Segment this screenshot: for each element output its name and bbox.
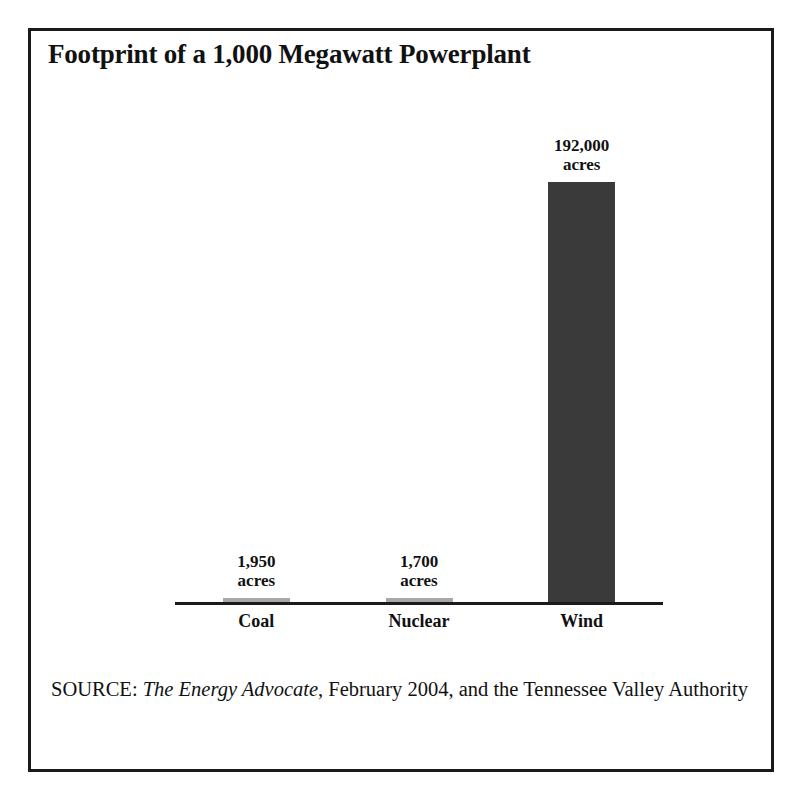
source-remainder: , February 2004, and the Tennessee Valle… <box>318 678 748 700</box>
bar-value-label-nuclear: 1,700 acres <box>400 552 438 591</box>
bar-value-label-wind: 192,000 acres <box>554 136 609 175</box>
category-label-nuclear: Nuclear <box>338 608 501 632</box>
figure-frame: Footprint of a 1,000 Megawatt Powerplant… <box>28 28 774 772</box>
bar-rect-wind <box>548 182 615 602</box>
bar-wind: 192,000 acres <box>500 132 663 602</box>
source-prefix: SOURCE: <box>51 678 143 700</box>
bar-value-label-coal: 1,950 acres <box>237 552 275 591</box>
bar-group: 1,950 acres 1,700 acres 192,000 acres <box>175 132 663 602</box>
bar-nuclear: 1,700 acres <box>338 132 501 602</box>
x-axis-category-labels: Coal Nuclear Wind <box>175 608 663 638</box>
category-label-wind: Wind <box>500 608 663 632</box>
source-publication-title: The Energy Advocate <box>143 678 318 700</box>
x-axis-line <box>175 602 663 605</box>
category-label-coal: Coal <box>175 608 338 632</box>
source-note: SOURCE: The Energy Advocate, February 20… <box>51 675 755 704</box>
bar-coal: 1,950 acres <box>175 132 338 602</box>
page-title: Footprint of a 1,000 Megawatt Powerplant <box>48 39 530 70</box>
bar-chart-plot-area: 1,950 acres 1,700 acres 192,000 acres Co… <box>48 93 754 638</box>
